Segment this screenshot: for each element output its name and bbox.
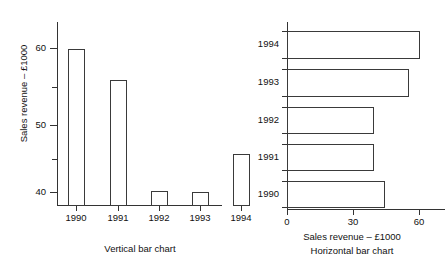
y-tick-45-minor xyxy=(52,159,58,160)
x-tick-label-0: 0 xyxy=(274,217,300,227)
x-tick-60 xyxy=(419,210,420,215)
vertical-chart-y-axis-label: Sales revenue – £1000 xyxy=(18,24,29,164)
x-tick-1992 xyxy=(159,206,160,211)
vertical-chart-caption: Vertical bar chart xyxy=(50,243,230,255)
horizontal-chart-x-axis xyxy=(287,209,445,210)
bar-1992 xyxy=(287,107,374,134)
x-tick-label-60: 60 xyxy=(406,217,432,227)
y-tick-50 xyxy=(50,125,58,126)
horizontal-chart-caption: Horizontal bar chart xyxy=(262,245,442,257)
y-tick-label-40: 40 xyxy=(24,187,46,197)
bar-1992 xyxy=(151,191,168,206)
x-tick-0 xyxy=(287,210,288,215)
x-tick-1991 xyxy=(118,206,119,211)
bar-1991 xyxy=(110,80,127,206)
category-label-1993: 1993 xyxy=(249,77,279,87)
bar-1990 xyxy=(68,49,85,206)
category-label-1991: 1991 xyxy=(249,152,279,162)
x-tick-label-1993: 1993 xyxy=(183,213,217,223)
x-tick-label-1990: 1990 xyxy=(59,213,93,223)
bar-1994 xyxy=(287,31,420,59)
bar-1993 xyxy=(287,69,409,97)
category-label-1990: 1990 xyxy=(249,189,279,199)
y-tick-55-minor xyxy=(52,87,58,88)
vertical-bar-chart: 60 50 40 Sales revenue – £1000 1990 1991… xyxy=(0,0,232,272)
category-label-1992: 1992 xyxy=(249,115,279,125)
bar-1993 xyxy=(192,192,209,206)
category-label-1994: 1994 xyxy=(249,39,279,49)
y-tick-40 xyxy=(50,192,58,193)
x-tick-1993 xyxy=(200,206,201,211)
bar-1991 xyxy=(287,144,374,171)
horizontal-bar-chart: 1994 1993 1992 1991 1990 0 30 60 Sales r… xyxy=(232,0,445,272)
y-tick-60 xyxy=(50,48,58,49)
x-tick-label-30: 30 xyxy=(340,217,366,227)
figure-bar-charts: 60 50 40 Sales revenue – £1000 1990 1991… xyxy=(0,0,445,272)
bar-1990 xyxy=(287,181,385,208)
x-tick-1990 xyxy=(76,206,77,211)
x-tick-30 xyxy=(353,210,354,215)
x-tick-label-1991: 1991 xyxy=(101,213,135,223)
horizontal-chart-x-axis-label: Sales revenue – £1000 xyxy=(262,231,442,243)
x-tick-label-1992: 1992 xyxy=(142,213,176,223)
vertical-chart-y-axis xyxy=(57,22,58,206)
